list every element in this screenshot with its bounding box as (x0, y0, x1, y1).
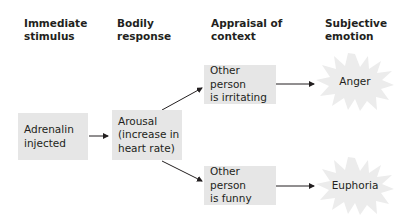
appraisal-irritating-box: Other person is irritating (204, 65, 276, 104)
appraisal-irritating-label: Other person is irritating (210, 64, 276, 105)
stimulus-box: Adrenalin injected (18, 113, 88, 160)
emotion-euphoria-burst: Euphoria (315, 156, 395, 216)
emotion-anger-label: Anger (315, 75, 395, 87)
appraisal-funny-box: Other person is funny (204, 166, 276, 205)
response-label: Arousal (increase in heart rate) (118, 115, 179, 156)
arrow-response-to-irritating (162, 88, 202, 110)
arrow-response-to-funny (162, 161, 202, 181)
appraisal-funny-label: Other person is funny (210, 165, 276, 206)
emotion-anger-burst: Anger (315, 52, 395, 112)
stimulus-label: Adrenalin injected (24, 123, 74, 150)
response-box: Arousal (increase in heart rate) (112, 110, 182, 160)
emotion-euphoria-label: Euphoria (315, 179, 395, 191)
